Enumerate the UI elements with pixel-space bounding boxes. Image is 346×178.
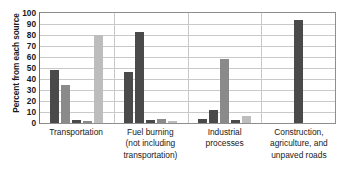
bar-group (40, 13, 114, 123)
y-tick-label: 90 (16, 20, 36, 28)
y-tick-label: 30 (16, 86, 36, 94)
x-axis-label-line: unpaved roads (264, 150, 334, 161)
bar (242, 116, 251, 123)
y-tick-label: 40 (16, 75, 36, 83)
y-tick-label: 60 (16, 53, 36, 61)
bar (157, 119, 166, 123)
x-axis-label: Construction,agriculture, andunpaved roa… (262, 127, 336, 161)
bar (220, 59, 229, 123)
bar (72, 120, 81, 123)
x-axis-label: Transportation (39, 127, 113, 161)
bar (83, 121, 92, 123)
bar (94, 35, 103, 123)
y-tick-label: 70 (16, 42, 36, 50)
bar (50, 70, 59, 123)
bar-series-container (40, 13, 335, 123)
x-axis-label-line: transportation) (115, 150, 185, 161)
bar (209, 110, 218, 123)
bar-group (261, 13, 335, 123)
y-tick-label: 20 (16, 97, 36, 105)
bar (146, 120, 155, 123)
bar-group (114, 13, 188, 123)
x-axis-label-line: Construction, (264, 127, 334, 138)
bar (124, 72, 133, 123)
bar (61, 85, 70, 124)
y-tick-label: 80 (16, 31, 36, 39)
x-axis-label-line: agriculture, and (264, 138, 334, 149)
bar (198, 119, 207, 123)
x-axis-label: Industrialprocesses (188, 127, 262, 161)
y-tick-label: 10 (16, 108, 36, 116)
bar (135, 32, 144, 123)
x-axis-label-line: Industrial (190, 127, 260, 138)
y-tick-label: 100 (16, 9, 36, 17)
x-axis-label-line: Fuel burning (115, 127, 185, 138)
x-axis-label: Fuel burning(not includingtransportation… (113, 127, 187, 161)
bar (231, 120, 240, 123)
y-tick-label: 0 (16, 119, 36, 127)
bar-chart: Percent from each source 100908070605040… (0, 0, 346, 178)
plot-area (39, 12, 336, 124)
x-axis-label-line: processes (190, 138, 260, 149)
x-axis-label-line: (not including (115, 138, 185, 149)
y-tick-label: 50 (16, 64, 36, 72)
y-axis-tick-labels: 1009080706050403020100 (16, 12, 36, 124)
bar-group (188, 13, 262, 123)
x-axis-category-labels: TransportationFuel burning(not including… (39, 127, 336, 161)
x-axis-label-line: Transportation (41, 127, 111, 138)
bar (168, 121, 177, 123)
bar (294, 20, 303, 123)
